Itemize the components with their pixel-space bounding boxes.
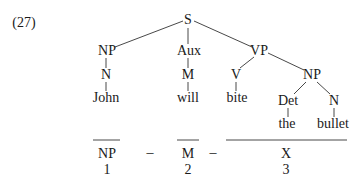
node-v: V [231,68,241,82]
word-bite: bite [227,91,248,105]
term-1-index: 1 [104,163,111,177]
node-n-subject: N [101,68,111,82]
node-n-object: N [329,94,339,108]
branch-s-np [115,21,183,47]
word-bullet: bullet [317,117,349,131]
node-m: M [182,68,194,82]
word-the: the [278,117,295,131]
term-1-label: NP [98,147,116,161]
term-2-index: 2 [185,163,192,177]
branch-s-vp [194,21,252,47]
word-john: John [93,91,119,105]
branch-vp-v [240,57,254,68]
node-s: S [184,13,192,27]
term-3-index: 3 [283,163,290,177]
node-vp: VP [250,44,268,58]
node-det: Det [278,94,298,108]
term-2-label: M [182,147,194,161]
example-number: (27) [12,16,35,30]
separator-2: – [210,146,217,160]
separator-1: – [147,146,154,160]
node-np-object: NP [303,68,321,82]
word-will: will [177,91,199,105]
branch-vp-np [268,53,304,70]
node-aux: Aux [177,44,201,58]
term-3-label: X [281,147,291,161]
node-np-subject: NP [98,44,116,58]
